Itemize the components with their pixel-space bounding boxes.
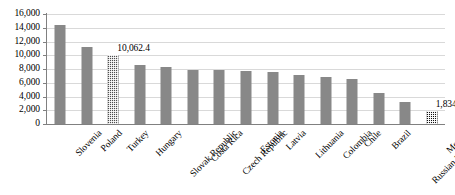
y-axis-tick-label: 0 (35, 119, 40, 129)
bar-hungary[interactable] (134, 65, 145, 124)
y-axis-tick-label: 16,000 (14, 9, 40, 19)
bar-brazil[interactable] (373, 93, 384, 124)
x-axis-label-russian-federation: Russian Federation (430, 128, 455, 185)
y-axis-tick-label: 4,000 (19, 92, 40, 102)
bar-slot (153, 14, 180, 124)
y-axis-tick-label: 14,000 (14, 23, 40, 33)
bar-slot (365, 14, 392, 124)
bar-colombia[interactable] (320, 77, 331, 124)
bar-slot (180, 14, 207, 124)
bar-slot (286, 14, 313, 124)
bar-slovak-republic[interactable] (161, 67, 172, 124)
bar-mexico[interactable] (426, 111, 437, 124)
bar-turkey[interactable] (108, 55, 119, 124)
x-axis-labels: SloveniaPolandTurkeyHungarySlovak Republ… (47, 126, 445, 195)
bar-lithuania[interactable] (294, 75, 305, 124)
y-axis-tick-label: 6,000 (19, 78, 40, 88)
y-axis-tick-label: 12,000 (14, 37, 40, 47)
bar-poland[interactable] (81, 47, 92, 124)
bar-series: 10,062.41,834.2 (47, 14, 445, 124)
bar-slot (312, 14, 339, 124)
y-axis-tick-label: 10,000 (14, 50, 40, 60)
bar-slot (100, 14, 127, 124)
bar-chile[interactable] (347, 79, 358, 124)
y-axis-tick-label: 8,000 (19, 64, 40, 74)
bar-slot (127, 14, 154, 124)
x-axis-label-poland: Poland (98, 128, 123, 153)
x-axis-label-lithuania: Lithuania (313, 128, 345, 160)
bar-slot (339, 14, 366, 124)
x-axis-label-hungary: Hungary (153, 128, 183, 158)
bar-slot (259, 14, 286, 124)
bar-estonia[interactable] (240, 71, 251, 124)
x-axis-line (44, 124, 445, 125)
y-axis-tick-label: 2,000 (19, 105, 40, 115)
bar-russian-federation[interactable] (400, 102, 411, 124)
bar-slot (392, 14, 419, 124)
bar-chart: 16,00014,00012,00010,0008,0006,0004,0002… (0, 0, 455, 195)
x-axis-label-latvia: Latvia (283, 128, 307, 152)
bar-czech-republic[interactable] (214, 70, 225, 124)
data-label-mexico: 1,834.2 (436, 100, 455, 110)
bar-latvia[interactable] (267, 72, 278, 124)
bar-slot (47, 14, 74, 124)
x-axis-label-slovenia: Slovenia (74, 128, 104, 158)
bar-costa-rica[interactable] (187, 70, 198, 124)
y-axis: 16,00014,00012,00010,0008,0006,0004,0002… (0, 0, 44, 195)
x-axis-label-mexico: Mexico (444, 128, 455, 155)
bar-slot (74, 14, 101, 124)
bar-slot (233, 14, 260, 124)
bar-slot (206, 14, 233, 124)
x-axis-label-turkey: Turkey (125, 128, 151, 154)
bar-slovenia[interactable] (55, 25, 66, 124)
x-axis-label-brazil: Brazil (389, 128, 412, 151)
